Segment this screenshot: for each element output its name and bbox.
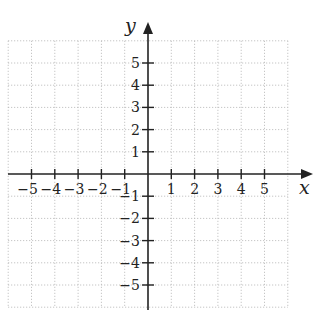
x-tick-label: 4 (237, 181, 246, 197)
y-tick-label: −3 (119, 233, 140, 249)
y-tick-label: 3 (131, 99, 140, 115)
x-tick-label: −5 (17, 181, 38, 197)
x-tick-label: −4 (40, 181, 61, 197)
y-tick-label: −2 (119, 210, 140, 226)
coordinate-plane: −5−4−3−2−11234554321−1−2−3−4−5 x y (0, 0, 321, 317)
x-axis-label: x (299, 176, 310, 198)
y-tick-label: 4 (131, 77, 140, 93)
y-tick-label: −1 (119, 188, 140, 204)
y-tick-label: −5 (119, 277, 140, 293)
y-tick-label: 1 (131, 144, 140, 160)
x-tick-label: 1 (167, 181, 176, 197)
x-tick-label: −2 (87, 181, 108, 197)
y-tick-label: 5 (131, 55, 140, 71)
y-axis-arrow-icon (143, 22, 153, 34)
y-tick-label: 2 (131, 122, 140, 138)
y-axis-label: y (124, 14, 136, 36)
x-tick-label: −3 (64, 181, 85, 197)
x-tick-label: 3 (213, 181, 222, 197)
axes (8, 22, 313, 310)
y-tick-label: −4 (119, 255, 140, 271)
x-tick-label: 2 (190, 181, 199, 197)
x-tick-label: 5 (260, 181, 269, 197)
